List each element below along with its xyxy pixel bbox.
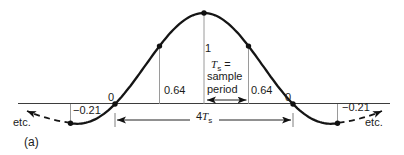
sample-period-note: Ts= sample period: [207, 58, 242, 95]
sample-point-dot: [157, 43, 162, 48]
value-064-right-label: 0.64: [251, 84, 272, 96]
ts-symbol: Ts=: [211, 58, 242, 70]
peak-value-label: 1: [205, 42, 211, 54]
curve-continuation-left-arrow: [27, 111, 71, 123]
sample-point-dot: [335, 121, 340, 126]
figure-canvas: [0, 0, 404, 155]
zero-left-label: 0: [108, 91, 114, 103]
sample-point-dot: [68, 121, 73, 126]
sinc-pulse-figure: 1 Ts= sample period 0.64 0.64 0 0 −0.21 …: [0, 0, 404, 155]
sample-word: sample: [207, 70, 242, 82]
sample-point-dot: [246, 43, 251, 48]
etc-right-label: etc.: [365, 116, 383, 128]
value-064-left-label: 0.64: [164, 84, 185, 96]
sample-point-dot: [201, 10, 206, 15]
subfigure-caption: (a): [24, 135, 39, 149]
value-neg021-left-label: −0.21: [73, 104, 101, 116]
zero-right-label: 0: [285, 91, 291, 103]
etc-left-label: etc.: [13, 116, 31, 128]
period-word: period: [207, 83, 242, 95]
value-neg021-right-label: −0.21: [342, 101, 370, 113]
four-ts-label: 4Ts: [190, 110, 218, 122]
